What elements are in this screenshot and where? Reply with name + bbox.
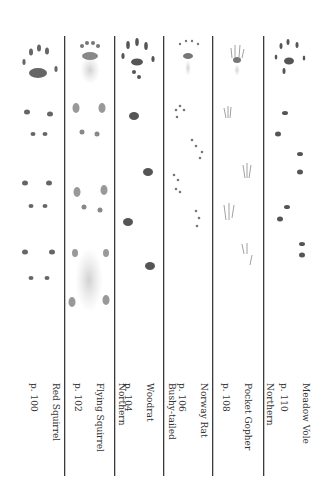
divider-1: [64, 36, 65, 226]
species-page: p. 102: [73, 383, 83, 412]
label-pocket-gopher: Northern Pocket Gopher p. 108: [220, 383, 240, 483]
species-name: Red Squirrel: [51, 383, 61, 441]
track-comparison-page: Red Squirrel p. 100 Northern Flying Squi…: [0, 0, 326, 497]
flying-squirrel-tracks: [69, 41, 110, 312]
norway-rat-tracks: [173, 40, 204, 228]
divider-5: [263, 36, 264, 226]
label-meadow-vole: Meadow Vole p. 110: [278, 383, 298, 483]
label-red-squirrel: Red Squirrel p. 100: [28, 383, 48, 483]
label-norway-rat: Norway Rat p. 106: [176, 383, 196, 483]
species-page: p. 100: [29, 383, 39, 412]
divider-3: [163, 36, 164, 226]
label-flying-squirrel: Northern Flying Squirrel p. 102: [72, 383, 92, 483]
species-page: p. 104: [123, 383, 133, 412]
divider-2: [114, 36, 115, 226]
woodrat-tracks: [121, 38, 155, 270]
red-squirrel-tracks: [22, 45, 58, 281]
species-page: p. 108: [221, 383, 231, 412]
meadow-vole-tracks: [275, 39, 306, 258]
species-page: p. 110: [279, 383, 289, 412]
pocket-gopher-tracks: [224, 45, 252, 265]
label-woodrat: Bushy-tailed Woodrat p. 104: [122, 383, 142, 483]
divider-4: [212, 36, 213, 226]
species-page: p. 106: [177, 383, 187, 412]
